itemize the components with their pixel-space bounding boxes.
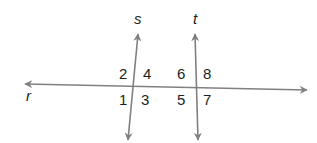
angle-label-6: 6 [177,65,185,82]
angle-label-3: 3 [141,91,149,108]
angle-label-4: 4 [143,65,151,82]
angle-label-8: 8 [203,65,211,82]
angle-label-2: 2 [119,65,127,82]
diagram-svg: r s t 1 2 3 4 5 6 7 8 [0,0,317,143]
parallel-lines-diagram: r s t 1 2 3 4 5 6 7 8 [0,0,317,143]
angle-label-1: 1 [119,91,127,108]
line-r [25,84,307,90]
label-line-t: t [193,10,198,27]
angle-label-5: 5 [177,91,185,108]
label-line-s: s [134,10,142,27]
angle-label-7: 7 [203,91,211,108]
label-line-r: r [26,87,32,104]
